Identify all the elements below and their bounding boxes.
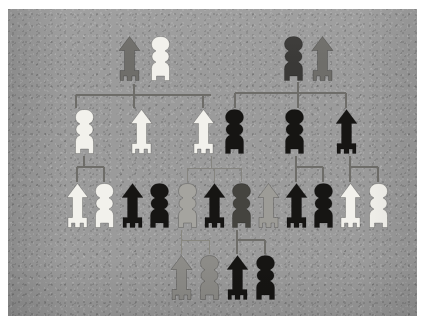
round-figure-icon xyxy=(280,35,307,83)
round-figure-icon xyxy=(71,108,98,156)
round-figure-icon xyxy=(174,182,201,230)
pedigree-photo-board xyxy=(8,9,417,316)
round-figure-icon xyxy=(147,35,174,83)
round-figure-icon xyxy=(221,108,248,156)
pedigree-figure-female-iii-4 xyxy=(146,182,173,230)
pedigree-figure-female-i-2 xyxy=(147,35,174,83)
pedigree-figure-male-iii-3 xyxy=(119,182,146,230)
pedigree-figure-male-iii-1 xyxy=(64,182,91,230)
arrow-figure-icon xyxy=(309,35,336,83)
arrow-figure-icon xyxy=(283,182,310,230)
round-figure-icon xyxy=(146,182,173,230)
pedigree-figure-male-iii-6 xyxy=(201,182,228,230)
pedigree-figure-male-iii-9 xyxy=(283,182,310,230)
pedigree-figure-female-iii-12 xyxy=(365,182,392,230)
pedigree-figure-female-ii-1 xyxy=(71,108,98,156)
arrow-figure-icon xyxy=(190,108,217,156)
pedigree-figure-male-iv-3 xyxy=(224,254,251,302)
round-figure-icon xyxy=(365,182,392,230)
arrow-figure-icon xyxy=(337,182,364,230)
pedigree-figure-male-i-1 xyxy=(116,35,143,83)
pedigree-figure-male-ii-6 xyxy=(333,108,360,156)
pedigree-figure-male-iv-1 xyxy=(168,254,195,302)
pedigree-figure-female-ii-5 xyxy=(281,108,308,156)
round-figure-icon xyxy=(228,182,255,230)
pedigree-figure-female-iv-2 xyxy=(196,254,223,302)
arrow-figure-icon xyxy=(201,182,228,230)
pedigree-figure-female-iv-4 xyxy=(252,254,279,302)
arrow-figure-icon xyxy=(64,182,91,230)
arrow-figure-icon xyxy=(255,182,282,230)
pedigree-figure-female-iii-2 xyxy=(91,182,118,230)
arrow-figure-icon xyxy=(168,254,195,302)
round-figure-icon xyxy=(196,254,223,302)
arrow-figure-icon xyxy=(119,182,146,230)
pedigree-figure-male-iii-11 xyxy=(337,182,364,230)
pedigree-figure-male-ii-3 xyxy=(190,108,217,156)
pedigree-figure-male-ii-2 xyxy=(128,108,155,156)
arrow-figure-icon xyxy=(116,35,143,83)
pedigree-figure-male-iii-8 xyxy=(255,182,282,230)
pedigree-figure-female-iii-7 xyxy=(228,182,255,230)
screenshot-root xyxy=(0,0,425,331)
pedigree-figure-female-iii-10 xyxy=(310,182,337,230)
round-figure-icon xyxy=(252,254,279,302)
pedigree-figure-female-iii-5 xyxy=(174,182,201,230)
pedigree-figure-female-i-3 xyxy=(280,35,307,83)
pedigree-figure-male-i-4 xyxy=(309,35,336,83)
round-figure-icon xyxy=(310,182,337,230)
round-figure-icon xyxy=(281,108,308,156)
arrow-figure-icon xyxy=(128,108,155,156)
arrow-figure-icon xyxy=(333,108,360,156)
arrow-figure-icon xyxy=(224,254,251,302)
pedigree-figure-female-ii-4 xyxy=(221,108,248,156)
round-figure-icon xyxy=(91,182,118,230)
